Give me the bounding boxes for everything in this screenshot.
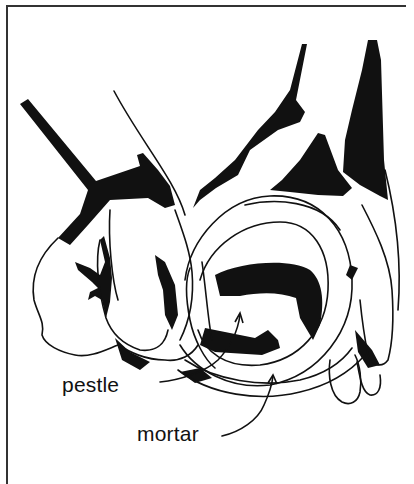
knuckle-mark-1 [75,236,112,318]
pestle-body [202,262,212,340]
base-shadow [115,338,150,370]
mortar-interior [215,263,322,340]
wrist-shadow [343,40,388,200]
pestle-shadow [200,328,280,355]
mortar-pestle-illustration [0,0,414,484]
pestle-label: pestle [62,374,119,395]
mortar-label: mortar [137,423,199,444]
palm-shadow [270,133,352,196]
forearm-shadow [20,99,175,245]
mortar-lip [245,202,340,230]
right-fingers [360,205,393,365]
finger-shadow [155,255,178,330]
